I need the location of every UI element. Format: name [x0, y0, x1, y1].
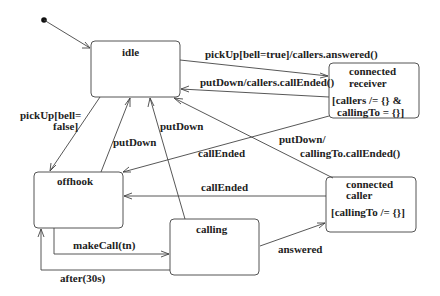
transition-label: putDown: [113, 136, 156, 148]
transition-offhook-to-calling: makeCall(tn): [54, 228, 169, 257]
state-connected-receiver-invariant1: [callers /= {} &: [332, 94, 402, 106]
state-connected-receiver: connected receiver [callers /= {} & call…: [329, 63, 419, 118]
transition-label: putDown: [160, 120, 203, 132]
state-connected-receiver-name1: connected: [349, 65, 396, 77]
transition-offhook-to-idle: putDown: [101, 98, 156, 172]
state-connected-caller-invariant: [callingTo /= {}]: [331, 206, 405, 218]
state-idle-label: idle: [122, 46, 139, 58]
state-connected-receiver-name2: receiver: [349, 77, 387, 89]
transition-calling-to-offhook: after(30s): [38, 229, 170, 285]
transition-label: callingTo.callEnded(): [300, 147, 400, 160]
state-calling-label: calling: [196, 223, 228, 235]
state-connected-receiver-invariant2: callingTo = {}]: [337, 106, 404, 118]
transition-calling-to-connected-caller: answered: [260, 223, 325, 255]
initial-state: [41, 17, 90, 48]
transition-label: makeCall(tn): [73, 239, 136, 252]
transition-label: pickUp[bell=true]/callers.answered(): [205, 48, 378, 61]
transition-label: putDown/: [279, 133, 326, 145]
transition-connected-receiver-to-idle: putDown/callers.callEnded(): [181, 76, 334, 97]
transition-label: false]: [53, 120, 78, 132]
transition-calling-to-idle: putDown: [148, 98, 203, 219]
state-offhook-label: offhook: [57, 175, 94, 187]
state-connected-caller-name2: caller: [346, 189, 372, 201]
state-calling: calling: [170, 219, 259, 275]
transition-label: callEnded: [201, 181, 248, 193]
transition-label: callEnded: [198, 147, 245, 159]
state-idle: idle: [91, 41, 180, 97]
transition-label: answered: [278, 243, 322, 255]
state-connected-caller: connected caller [callingTo /= {}]: [326, 177, 416, 232]
transition-label: after(30s): [60, 272, 106, 285]
state-offhook: offhook: [34, 172, 123, 228]
transition-idle-to-offhook: pickUp[bell= false]: [20, 97, 100, 171]
transition-label: putDown/callers.callEnded(): [200, 76, 334, 89]
transition-connected-caller-to-offhook: callEnded: [124, 181, 326, 199]
state-diagram: idle connected receiver [callers /= {} &…: [0, 0, 440, 296]
